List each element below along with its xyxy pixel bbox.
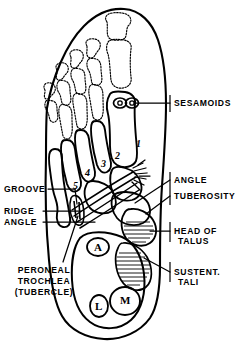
metatarsal-number-5: 5 [73,180,78,191]
label-sesamoids: SESAMOIDS [174,98,231,108]
phalanx-middle-3 [71,68,86,94]
phalanx-proximal-2 [89,85,103,121]
calcaneal-letter-l: L [95,300,102,312]
phalanx-distal-2 [86,39,100,58]
phalanx-distal-1 [106,13,131,41]
label-head-of: HEAD OF [174,226,217,236]
phalanx-middle-4 [57,80,71,105]
phalanx-proximal-3 [73,94,87,130]
metatarsal-number-2: 2 [115,150,120,161]
figure-canvas: SESAMOIDS GROOVE RIDGE ANGLE ANGLE TUBER… [0,0,242,346]
calcaneal-letter-m: M [120,294,130,306]
phalanx-proximal-1 [107,39,132,88]
label-talus: TALUS [178,236,209,246]
metatarsal-5 [49,149,70,227]
calcaneal-letter-a: A [94,241,102,253]
phalanx-distal-3 [70,50,83,68]
metatarsal-number-4: 4 [85,167,90,178]
metatarsal-number-1: 1 [136,138,141,149]
label-ridge: RIDGE [4,206,34,216]
label-angle-left: ANGLE [4,217,37,227]
metatarsal-number-3: 3 [101,158,106,169]
label-trochlea: TROCHLEA [4,276,84,286]
phalanx-middle-2 [87,58,102,85]
label-tubercle: (TUBERCLE) [4,287,84,297]
label-tali: TALI [178,277,199,287]
phalanx-proximal-4 [59,105,72,140]
label-groove: GROOVE [4,184,45,194]
label-tuberosity: TUBEROSITY [174,191,235,201]
sustentaculum-tali [116,243,152,290]
label-sustent: SUSTENT. [174,267,220,277]
label-peroneal: PERONEAL [4,265,84,275]
label-angle-right: ANGLE [174,175,207,185]
